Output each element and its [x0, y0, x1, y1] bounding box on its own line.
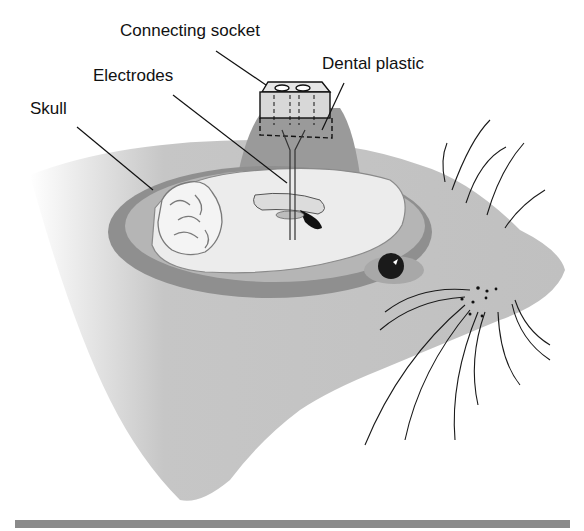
eye	[378, 253, 404, 279]
label-electrodes: Electrodes	[93, 67, 173, 84]
bottom-divider-bar	[15, 520, 570, 528]
cerebellum	[158, 182, 222, 255]
label-dental-plastic: Dental plastic	[322, 55, 424, 72]
rat-electrode-diagram: Connecting socket Electrodes Dental plas…	[0, 0, 584, 531]
label-connecting-socket: Connecting socket	[120, 22, 260, 39]
label-skull: Skull	[30, 100, 67, 117]
diagram-illustration	[0, 0, 584, 531]
